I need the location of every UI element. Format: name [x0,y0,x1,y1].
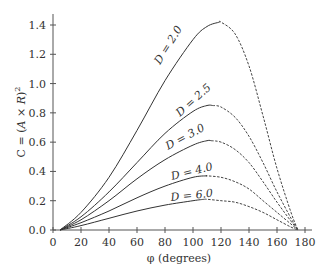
y-tick-label: 0.6 [29,136,47,149]
y-tick-label: 1.4 [29,19,47,32]
line-chart: 0.00.20.40.60.81.01.21.4 020406080100120… [0,0,326,277]
y-tick-label: 1.2 [29,48,47,61]
x-tick-label: 80 [158,236,172,249]
y-tick-label: 0.4 [29,165,47,178]
x-tick-label: 60 [130,236,144,249]
x-tick-label: 40 [102,236,116,249]
curve-label: D = 2.0 [151,24,185,68]
x-tick-label: 0 [50,236,57,249]
curve-labels: D = 2.0D = 2.5D = 3.0D = 4.0D = 6.0 [151,24,214,204]
curve-solid-3 [60,176,207,230]
y-tick-label: 0.8 [29,107,47,120]
x-tick-label: 100 [183,236,204,249]
x-tick-label: 120 [211,236,232,249]
curve-dashed-4 [204,199,298,230]
curve-label: D = 3.0 [162,121,207,153]
curve-solid-4 [60,199,204,230]
curve-solid-2 [60,140,211,230]
x-tick-label: 140 [239,236,260,249]
x-tick-label: 160 [267,236,288,249]
curve-dashed-3 [206,176,298,230]
curve-dashed-0 [219,21,298,230]
curve-dashed-2 [211,141,298,230]
curve-label: D = 6.0 [169,187,214,204]
x-axis-title: φ (degrees) [147,252,211,265]
y-axis-title: C = (A × R)2 [13,87,28,158]
curve-dashed-1 [213,106,298,231]
y-tick-label: 0.2 [29,195,47,208]
curve-label: D = 4.0 [169,160,214,183]
x-tick-label: 180 [295,236,316,249]
y-ticks: 0.00.20.40.60.81.01.21.4 [29,19,57,237]
curve-label: D = 2.5 [173,81,214,120]
y-tick-label: 1.0 [29,78,47,91]
y-tick-label: 0.0 [29,224,47,237]
x-tick-label: 20 [74,236,88,249]
